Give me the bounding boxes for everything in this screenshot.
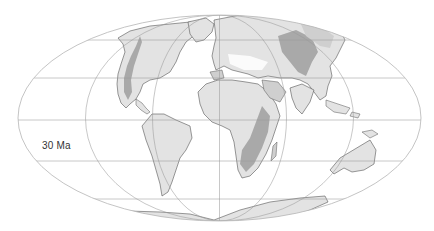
paleogeographic-map xyxy=(0,0,434,231)
geologic-age-label: 30 Ma xyxy=(42,140,71,151)
